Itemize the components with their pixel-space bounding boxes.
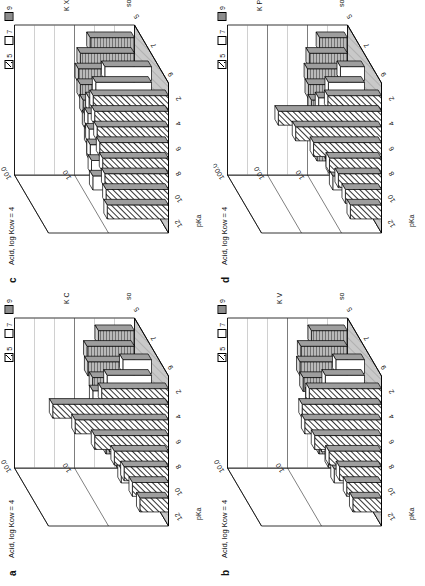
ph-axis-label: soil pH bbox=[337, 0, 345, 7]
svg-text:6: 6 bbox=[387, 438, 395, 445]
svg-text:100.0: 100.0 bbox=[213, 162, 225, 181]
svg-text:4: 4 bbox=[387, 120, 395, 127]
pka-axis-label: pKa bbox=[407, 214, 415, 227]
pka-axis-label: pKa bbox=[194, 214, 202, 227]
z-axis-label: K Vac-soil bbox=[275, 293, 282, 304]
plot-c: 10.01.00.197512108642pKasoil pHK Xyl-soi… bbox=[0, 0, 212, 293]
ph-axis-label: soil pH bbox=[124, 0, 132, 7]
z-axis-label: K Cyt-soil bbox=[62, 293, 70, 304]
ph-axis-label: soil pH bbox=[337, 293, 345, 300]
svg-text:10.0: 10.0 bbox=[213, 459, 225, 474]
svg-text:9: 9 bbox=[166, 71, 174, 78]
panel-a: a Acid, log Kow = 4 5 7 9 10.01.00.19751… bbox=[0, 293, 212, 586]
svg-text:9: 9 bbox=[166, 364, 174, 371]
svg-text:8: 8 bbox=[174, 170, 182, 177]
svg-text:7: 7 bbox=[362, 42, 370, 49]
figure-canvas: a Acid, log Kow = 4 5 7 9 10.01.00.19751… bbox=[0, 0, 425, 586]
pka-axis-label: pKa bbox=[194, 507, 202, 520]
svg-text:4: 4 bbox=[174, 120, 182, 127]
svg-text:2: 2 bbox=[174, 388, 182, 395]
svg-text:10.0: 10.0 bbox=[0, 459, 12, 474]
panel-b: b Acid, log Kow = 4 5 7 9 10.01.00.19751… bbox=[213, 293, 425, 586]
svg-text:2: 2 bbox=[387, 95, 395, 102]
svg-text:5: 5 bbox=[132, 13, 140, 20]
svg-text:10: 10 bbox=[173, 487, 183, 497]
pka-axis-label: pKa bbox=[407, 507, 415, 520]
svg-text:7: 7 bbox=[149, 42, 157, 49]
svg-text:2: 2 bbox=[174, 95, 182, 102]
svg-text:6: 6 bbox=[174, 145, 182, 152]
svg-text:9: 9 bbox=[379, 71, 387, 78]
svg-text:9: 9 bbox=[379, 364, 387, 371]
plot-a: 10.01.00.197512108642pKasoil pHK Cyt-soi… bbox=[0, 293, 212, 586]
svg-text:8: 8 bbox=[387, 463, 395, 470]
svg-text:7: 7 bbox=[149, 335, 157, 342]
svg-text:7: 7 bbox=[362, 335, 370, 342]
svg-text:10.0: 10.0 bbox=[0, 166, 12, 181]
z-axis-label: K Phlo-soil bbox=[255, 0, 262, 11]
panel-d: d Acid, log Kow = 4 5 7 9 100.010.01.00.… bbox=[213, 0, 425, 293]
plot-b: 10.01.00.197512108642pKasoil pHK Vac-soi… bbox=[213, 293, 425, 586]
svg-text:4: 4 bbox=[174, 413, 182, 420]
ph-axis-label: soil pH bbox=[124, 293, 132, 300]
svg-text:10: 10 bbox=[386, 194, 396, 204]
svg-text:6: 6 bbox=[174, 438, 182, 445]
svg-text:6: 6 bbox=[387, 145, 395, 152]
figure-page: a Acid, log Kow = 4 5 7 9 10.01.00.19751… bbox=[0, 0, 425, 586]
svg-text:4: 4 bbox=[387, 413, 395, 420]
svg-text:12: 12 bbox=[386, 512, 396, 522]
svg-text:12: 12 bbox=[173, 512, 183, 522]
svg-text:8: 8 bbox=[387, 170, 395, 177]
svg-text:10: 10 bbox=[386, 487, 396, 497]
svg-text:5: 5 bbox=[345, 306, 353, 313]
panel-c: c Acid, log Kow = 4 5 7 9 10.01.00.19751… bbox=[0, 0, 212, 293]
plot-d: 100.010.01.00.197512108642pKasoil pHK Ph… bbox=[213, 0, 425, 293]
svg-text:12: 12 bbox=[173, 219, 183, 229]
svg-text:5: 5 bbox=[132, 306, 140, 313]
svg-text:10: 10 bbox=[173, 194, 183, 204]
svg-text:5: 5 bbox=[345, 13, 353, 20]
svg-text:2: 2 bbox=[387, 388, 395, 395]
z-axis-label: K Xyl-soil bbox=[62, 0, 70, 11]
svg-text:8: 8 bbox=[174, 463, 182, 470]
svg-text:12: 12 bbox=[386, 219, 396, 229]
